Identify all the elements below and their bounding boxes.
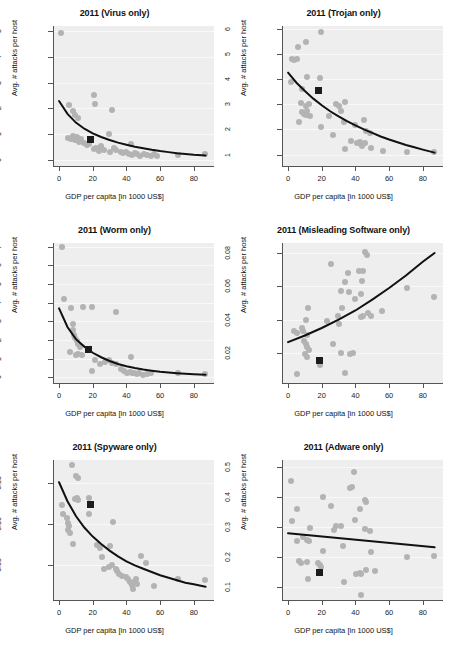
highlight-marker — [316, 357, 323, 364]
x-tick-label: 80 — [179, 174, 209, 183]
highlight-marker — [315, 87, 322, 94]
y-tick — [277, 353, 282, 354]
plot-area — [283, 460, 443, 600]
x-tick — [160, 383, 161, 388]
x-axis-title: GDP per capita [in 1000 US$] — [0, 626, 229, 635]
x-tick-label: 60 — [374, 391, 404, 400]
y-tick — [48, 31, 53, 32]
highlight-marker — [87, 501, 94, 508]
x-axis-title: GDP per capita [in 1000 US$] — [0, 192, 229, 201]
chart-panel: 2011 (Adware only)0.10.20.30.40.50204060… — [229, 434, 458, 651]
x-tick — [389, 166, 390, 171]
y-tick — [277, 557, 282, 558]
x-tick-label: 0 — [44, 608, 74, 617]
y-axis-title: Avg. # attacks per host — [239, 454, 248, 530]
x-tick — [59, 600, 60, 605]
x-tick-label: 60 — [145, 174, 175, 183]
y-tick — [48, 265, 53, 266]
x-tick-label: 80 — [179, 391, 209, 400]
plot-area — [54, 460, 214, 600]
y-axis-title: Avg. # attacks per host — [239, 20, 248, 96]
y-axis-line — [282, 460, 283, 600]
y-axis-line — [53, 460, 54, 600]
trend-line — [283, 26, 443, 166]
plot-area — [54, 243, 214, 383]
plot-area — [54, 26, 214, 166]
x-tick-label: 40 — [111, 608, 141, 617]
y-tick — [48, 284, 53, 285]
panel-title: 2011 (Virus only) — [0, 8, 229, 18]
chart-panel: 2011 (Virus only)012345020406080GDP per … — [0, 0, 229, 217]
x-tick-label: 20 — [307, 608, 337, 617]
x-tick-label: 20 — [78, 608, 108, 617]
y-axis-title: Avg. # attacks per host — [10, 454, 19, 530]
x-tick — [194, 166, 195, 171]
x-tick-label: 20 — [78, 174, 108, 183]
x-tick — [93, 383, 94, 388]
y-axis-line — [282, 26, 283, 166]
x-tick-label: 0 — [44, 174, 74, 183]
x-axis-line — [282, 600, 443, 601]
chart-panel: 2011 (Misleading Software only)0.020.040… — [229, 217, 458, 434]
x-tick — [93, 166, 94, 171]
x-tick-label: 0 — [273, 174, 303, 183]
y-tick — [277, 155, 282, 156]
y-tick — [48, 524, 53, 525]
chart-panel: 2011 (Spyware only)0.050.100.15020406080… — [0, 434, 229, 651]
x-tick-label: 20 — [78, 391, 108, 400]
x-tick-label: 80 — [408, 174, 438, 183]
y-tick — [48, 483, 53, 484]
x-tick — [389, 383, 390, 388]
highlight-marker — [85, 346, 92, 353]
x-tick — [160, 166, 161, 171]
x-tick — [59, 383, 60, 388]
x-tick — [160, 600, 161, 605]
x-tick-label: 60 — [145, 391, 175, 400]
y-tick — [277, 467, 282, 468]
x-tick-label: 40 — [111, 391, 141, 400]
x-tick — [126, 383, 127, 388]
x-tick — [288, 600, 289, 605]
y-tick — [48, 134, 53, 135]
x-tick — [288, 166, 289, 171]
chart-panel: 2011 (Trojan only)123456020406080GDP per… — [229, 0, 458, 217]
x-tick-label: 80 — [408, 391, 438, 400]
x-tick — [355, 600, 356, 605]
trend-line — [54, 460, 214, 600]
x-axis-line — [282, 383, 443, 384]
panel-title: 2011 (Misleading Software only) — [229, 225, 458, 235]
y-axis-title: Avg. # attacks per host — [239, 237, 248, 313]
x-tick-label: 60 — [374, 608, 404, 617]
x-axis-line — [53, 600, 214, 601]
x-tick — [194, 600, 195, 605]
x-tick — [423, 383, 424, 388]
panel-title: 2011 (Trojan only) — [229, 8, 458, 18]
x-tick-label: 60 — [145, 608, 175, 617]
x-tick — [194, 383, 195, 388]
x-axis-title: GDP per capita [in 1000 US$] — [0, 409, 229, 418]
y-tick — [277, 129, 282, 130]
panel-title: 2011 (Worm only) — [0, 225, 229, 235]
x-tick — [355, 383, 356, 388]
x-tick — [126, 166, 127, 171]
x-tick — [322, 383, 323, 388]
x-tick — [126, 600, 127, 605]
y-tick — [277, 104, 282, 105]
y-tick — [48, 321, 53, 322]
y-tick — [277, 497, 282, 498]
x-tick-label: 20 — [307, 174, 337, 183]
x-tick — [423, 600, 424, 605]
y-tick — [277, 79, 282, 80]
y-tick — [48, 160, 53, 161]
x-tick — [389, 600, 390, 605]
x-tick-label: 0 — [44, 391, 74, 400]
y-tick — [277, 54, 282, 55]
x-tick-label: 40 — [111, 174, 141, 183]
x-axis-title: GDP per capita [in 1000 US$] — [229, 626, 458, 635]
trend-line — [283, 460, 443, 600]
chart-panel: 2011 (Worm only)01234567020406080GDP per… — [0, 217, 229, 434]
x-axis-title: GDP per capita [in 1000 US$] — [229, 192, 458, 201]
y-tick — [48, 108, 53, 109]
trend-line — [283, 243, 443, 383]
x-tick-label: 60 — [374, 174, 404, 183]
